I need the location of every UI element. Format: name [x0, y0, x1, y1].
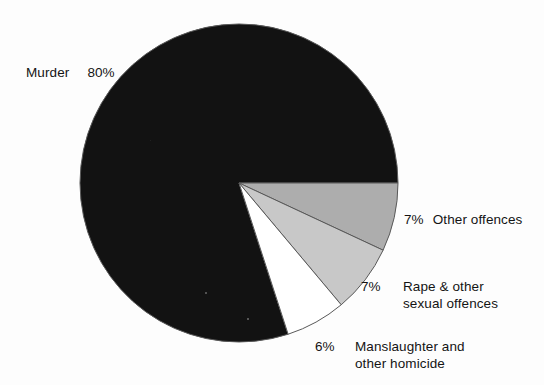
slice-label-other-offences: 7%Other offences [404, 211, 522, 228]
slice-label-manslaughter-line2: other homicide [355, 356, 445, 371]
slice-label-rape-line2: sexual offences [403, 296, 498, 311]
slice-label-murder-percent: 80% [87, 64, 114, 81]
slice-label-manslaughter-text: Manslaughter and other homicide [355, 338, 505, 372]
slice-label-manslaughter: 6% Manslaughter and other homicide [315, 338, 505, 372]
slice-label-manslaughter-line1: Manslaughter and [355, 339, 465, 354]
pie-chart-svg [0, 0, 544, 385]
slice-label-other-offences-percent: 7% [404, 211, 424, 228]
slice-label-murder-text: Murder [26, 64, 69, 81]
slice-label-rape-sexual-offences-text: Rape & other sexual offences [403, 278, 533, 312]
slice-label-manslaughter-percent: 6% [315, 338, 335, 355]
slice-label-rape-sexual-offences: 7% Rape & other sexual offences [361, 278, 533, 312]
slice-label-rape-sexual-offences-percent: 7% [361, 278, 381, 295]
slice-label-other-offences-text: Other offences [433, 211, 523, 228]
pie-chart: Murder80% 7%Other offences 7% Rape & oth… [0, 0, 544, 385]
pie-slice-group [80, 24, 398, 342]
slice-label-murder: Murder80% [26, 64, 115, 81]
slice-label-rape-line1: Rape & other [403, 279, 484, 294]
